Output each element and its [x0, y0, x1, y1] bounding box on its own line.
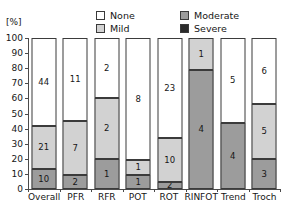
bar-slot: 356 — [249, 38, 281, 189]
y-tick-label: 20 — [12, 154, 23, 163]
bar-segment-none: 6 — [252, 38, 277, 104]
bar-segment-value: 23 — [164, 84, 175, 93]
y-tick-label: 30 — [12, 139, 23, 148]
bar-segment-value: 2 — [73, 178, 78, 187]
legend-item-severe: Severe — [180, 24, 282, 34]
x-tick-label-rfr: RFR — [91, 192, 122, 210]
stacked-bar[interactable]: 2711 — [63, 38, 88, 189]
bar-segment-value: 7 — [73, 144, 78, 153]
legend-item-none: None — [96, 11, 180, 21]
bar-segment-mild: 7 — [63, 121, 88, 175]
bar-slot: 45 — [217, 38, 249, 189]
bar-segment-value: 21 — [38, 143, 49, 152]
x-tick-label-pfr: PFR — [60, 192, 91, 210]
bar-segment-moderate: 3 — [252, 159, 277, 189]
y-tick-label: 50 — [12, 109, 23, 118]
bar-segment-value: 2 — [104, 64, 109, 73]
y-tick-label: 10 — [12, 169, 23, 178]
bar-segment-moderate: 4 — [189, 70, 214, 189]
bar-segment-value: 5 — [230, 76, 235, 85]
stacked-bar[interactable]: 356 — [252, 38, 277, 189]
bar-segment-value: 10 — [164, 156, 175, 165]
bar-segment-value: 44 — [38, 78, 49, 87]
bar-segment-value: 4 — [199, 125, 204, 134]
bar-segment-value: 8 — [136, 95, 141, 104]
legend-label-mild: Mild — [110, 24, 130, 34]
bar-segment-none: 2 — [94, 38, 119, 98]
bar-slot: 2711 — [60, 38, 92, 189]
bar-segment-value: 1 — [104, 170, 109, 179]
stacked-bar[interactable]: 45 — [220, 38, 245, 189]
x-tick-label-pot: POT — [122, 192, 153, 210]
bar-segment-moderate: 4 — [220, 123, 245, 189]
stacked-bar[interactable]: 118 — [126, 38, 151, 189]
bar-slot: 41 — [186, 38, 218, 189]
legend-label-severe: Severe — [194, 24, 227, 34]
stacked-bar-chart: None Moderate Mild Severe [%] 0102030405… — [0, 0, 288, 216]
legend-item-mild: Mild — [96, 24, 180, 34]
bar-segment-value: 5 — [262, 127, 267, 136]
bar-slot: 102144 — [28, 38, 60, 189]
stacked-bar[interactable]: 102144 — [31, 38, 56, 189]
bar-segment-value: 2 — [104, 124, 109, 133]
legend-swatch-severe-icon — [180, 24, 189, 33]
legend-item-moderate: Moderate — [180, 11, 282, 21]
legend-label-none: None — [110, 11, 135, 21]
bar-segment-value: 6 — [262, 67, 267, 76]
bar-segment-value: 1 — [199, 50, 204, 59]
bar-segment-value: 2 — [167, 182, 172, 189]
stacked-bar[interactable]: 41 — [189, 38, 214, 189]
bar-segment-moderate: 1 — [126, 175, 151, 189]
bar-segment-none: 44 — [31, 38, 56, 126]
bar-segment-value: 11 — [70, 75, 81, 84]
bar-slot: 122 — [91, 38, 123, 189]
bar-group: 1021442711122118210234145356 — [28, 38, 280, 189]
legend-swatch-mild-icon — [96, 24, 105, 33]
bar-segment-none: 11 — [63, 38, 88, 121]
stacked-bar[interactable]: 21023 — [157, 38, 182, 189]
bar-segment-value: 10 — [38, 175, 49, 184]
y-tick-label: 80 — [12, 64, 23, 73]
y-tick-label: 0 — [17, 185, 23, 194]
y-axis-unit-label: [%] — [6, 17, 22, 27]
bar-segment-none: 23 — [157, 38, 182, 138]
bar-slot: 21023 — [154, 38, 186, 189]
bar-segment-none: 8 — [126, 38, 151, 160]
bar-segment-mild: 5 — [252, 104, 277, 158]
bar-segment-moderate: 2 — [63, 175, 88, 189]
bar-segment-none: 5 — [220, 38, 245, 123]
y-tick-label: 70 — [12, 79, 23, 88]
bar-segment-value: 3 — [262, 170, 267, 179]
legend-swatch-none-icon — [96, 11, 105, 20]
bar-segment-mild: 2 — [94, 98, 119, 158]
legend-label-moderate: Moderate — [194, 11, 239, 21]
x-axis-labels: OverallPFRRFRPOTROTRINFOTTrendTroch — [28, 192, 280, 210]
bar-segment-value: 1 — [136, 178, 141, 187]
bar-segment-moderate: 2 — [157, 182, 182, 189]
stacked-bar[interactable]: 122 — [94, 38, 119, 189]
bar-segment-moderate: 10 — [31, 169, 56, 189]
bar-segment-value: 4 — [230, 152, 235, 161]
bar-segment-mild: 10 — [157, 138, 182, 181]
bar-segment-moderate: 1 — [94, 159, 119, 189]
x-tick-label-rot: ROT — [153, 192, 184, 210]
x-tick-label-overall: Overall — [28, 192, 60, 210]
y-tick-label: 40 — [12, 124, 23, 133]
x-tick-label-troch: Troch — [249, 192, 280, 210]
bar-slot: 118 — [123, 38, 155, 189]
legend-swatch-moderate-icon — [180, 11, 189, 20]
bar-segment-mild: 1 — [126, 160, 151, 175]
bar-segment-value: 1 — [136, 163, 141, 172]
bar-segment-mild: 21 — [31, 126, 56, 169]
x-tick-mark — [280, 189, 281, 192]
y-tick-label: 100 — [6, 34, 23, 43]
x-tick-label-rinfot: RINFOT — [184, 192, 217, 210]
plot-area: 0102030405060708090100 10214427111221182… — [28, 38, 280, 189]
y-tick-label: 60 — [12, 94, 23, 103]
bar-segment-mild: 1 — [189, 38, 214, 70]
y-tick-label: 90 — [12, 49, 23, 58]
chart-legend: None Moderate Mild Severe — [96, 9, 282, 35]
x-tick-label-trend: Trend — [218, 192, 249, 210]
